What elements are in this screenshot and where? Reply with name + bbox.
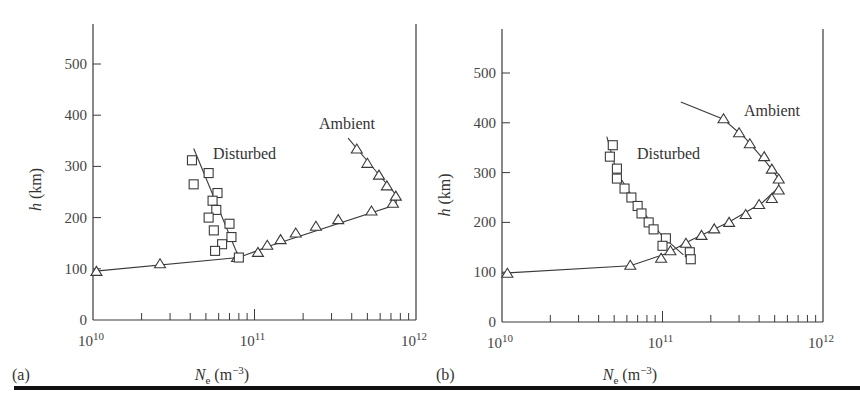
y-tick-label: 500 — [65, 56, 88, 72]
square-marker-icon — [211, 246, 220, 255]
x-tick-label: 1010 — [78, 330, 105, 349]
y-axis-title: h (km) — [27, 168, 45, 211]
triangle-marker-icon — [390, 191, 401, 200]
square-marker-icon — [227, 233, 236, 242]
figure-canvas: 0100200300400500101010111012h (km)Ne (m−… — [0, 0, 860, 412]
ambient-label: Ambient — [744, 102, 801, 119]
square-marker-icon — [605, 152, 614, 161]
x-tick-label: 1012 — [808, 332, 834, 351]
triangle-marker-icon — [155, 259, 166, 268]
triangle-marker-icon — [373, 170, 384, 179]
triangle-marker-icon — [262, 240, 273, 249]
x-tick-label: 1010 — [487, 332, 514, 351]
square-marker-icon — [612, 164, 621, 173]
square-marker-icon — [627, 193, 636, 202]
x-axis-title: Ne (m−3) — [194, 364, 249, 386]
triangle-marker-icon — [310, 221, 321, 230]
square-marker-icon — [209, 226, 218, 235]
panel-b-chart: 0100200300400500101010111012h (km)Ne (m−… — [436, 29, 834, 386]
square-marker-icon — [658, 241, 667, 250]
triangle-marker-icon — [696, 230, 707, 239]
x-axis-title: Ne (m−3) — [602, 364, 657, 386]
y-tick-label: 200 — [65, 210, 88, 226]
triangle-marker-icon — [773, 174, 784, 183]
triangle-marker-icon — [766, 164, 777, 173]
square-marker-icon — [187, 156, 196, 165]
triangle-marker-icon — [333, 215, 344, 224]
triangle-marker-icon — [680, 238, 691, 247]
triangle-marker-icon — [290, 228, 301, 237]
triangle-marker-icon — [351, 144, 362, 153]
triangle-marker-icon — [744, 139, 755, 148]
ambient-label: Ambient — [319, 115, 376, 132]
square-marker-icon — [204, 169, 213, 178]
square-marker-icon — [189, 180, 198, 189]
disturbed-label: Disturbed — [637, 145, 700, 162]
x-tick-label: 1011 — [648, 332, 674, 351]
square-marker-icon — [649, 225, 658, 234]
panel-label: (b) — [436, 366, 455, 384]
square-marker-icon — [620, 184, 629, 193]
square-marker-icon — [637, 209, 646, 218]
triangle-marker-icon — [724, 217, 735, 226]
triangle-marker-icon — [754, 199, 765, 208]
square-marker-icon — [208, 196, 217, 205]
figure-bottom-rule — [14, 386, 860, 390]
y-tick-label: 200 — [474, 214, 497, 230]
x-tick-label: 1012 — [401, 330, 427, 349]
square-marker-icon — [225, 219, 234, 228]
square-marker-icon — [612, 174, 621, 183]
square-marker-icon — [204, 213, 213, 222]
y-tick-label: 100 — [474, 264, 497, 280]
ambient-fit-line — [502, 102, 779, 273]
y-tick-label: 0 — [489, 314, 497, 330]
x-tick-label: 1011 — [240, 330, 266, 349]
y-tick-label: 300 — [474, 165, 497, 181]
square-marker-icon — [234, 253, 243, 262]
panel-label: (a) — [12, 366, 30, 384]
square-marker-icon — [686, 255, 695, 264]
y-axis-title: h (km) — [436, 173, 454, 216]
triangle-marker-icon — [381, 181, 392, 190]
y-tick-label: 500 — [474, 65, 497, 81]
square-marker-icon — [608, 141, 617, 150]
y-tick-label: 0 — [80, 312, 88, 328]
triangle-marker-icon — [362, 158, 373, 167]
y-tick-label: 100 — [65, 261, 88, 277]
y-tick-label: 400 — [474, 115, 497, 131]
disturbed-label: Disturbed — [213, 145, 276, 162]
y-tick-label: 400 — [65, 107, 88, 123]
y-tick-label: 300 — [65, 158, 88, 174]
triangle-marker-icon — [366, 206, 377, 215]
triangle-marker-icon — [275, 235, 286, 244]
panel-a-chart: 0100200300400500101010111012h (km)Ne (m−… — [12, 24, 427, 386]
triangle-marker-icon — [709, 224, 720, 233]
triangle-marker-icon — [773, 185, 784, 194]
